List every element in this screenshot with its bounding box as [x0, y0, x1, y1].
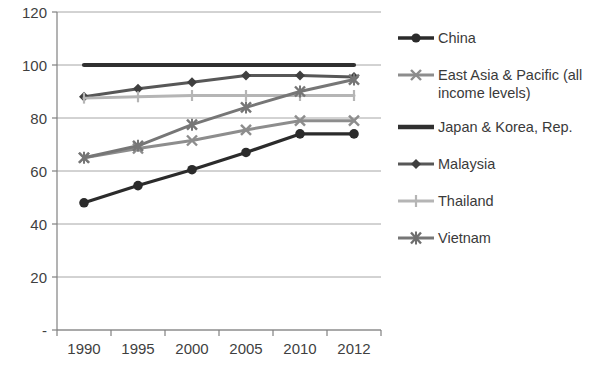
y-tick-label: -	[42, 322, 47, 339]
y-tick-label: 120	[22, 4, 47, 21]
y-tick-label: 20	[30, 269, 47, 286]
data-point	[187, 165, 197, 175]
y-tick-label: 80	[30, 110, 47, 127]
y-tick-label: 60	[30, 163, 47, 180]
series-vietnam	[79, 74, 359, 164]
data-point	[133, 181, 143, 191]
legend-label-vietnam: Vietnam	[438, 228, 491, 247]
legend-item-thailand[interactable]: Thailand	[396, 191, 599, 213]
series-east-asia-pacific-all-income-levels	[79, 116, 359, 163]
data-point	[349, 129, 359, 139]
x-tick-label: 1990	[67, 340, 100, 357]
legend-label-china: China	[438, 28, 476, 47]
series-line	[84, 134, 354, 203]
line-chart: -20406080100120199019952000200520102012 …	[0, 0, 599, 373]
plot-area: -20406080100120199019952000200520102012	[0, 0, 400, 373]
legend-item-vietnam[interactable]: Vietnam	[396, 228, 599, 250]
chart-legend: China East Asia & Pacific (all income le…	[396, 28, 599, 265]
legend-label-japan-korea: Japan & Korea, Rep.	[438, 117, 573, 136]
y-tick-label: 40	[30, 216, 47, 233]
legend-marker-diamond-icon	[396, 154, 436, 174]
legend-label-malaysia: Malaysia	[438, 154, 495, 173]
data-point	[295, 129, 305, 139]
data-point	[79, 198, 89, 208]
legend-label-thailand: Thailand	[438, 191, 494, 210]
data-point	[241, 148, 251, 158]
x-tick-label: 2010	[283, 340, 316, 357]
data-point	[187, 77, 197, 87]
chart-canvas: -20406080100120199019952000200520102012	[0, 0, 400, 373]
x-tick-label: 2012	[337, 340, 370, 357]
series-line	[84, 76, 354, 97]
x-tick-label: 2005	[229, 340, 262, 357]
series-china	[79, 129, 359, 208]
legend-item-east-asia-pacific[interactable]: East Asia & Pacific (all income levels)	[396, 65, 599, 102]
legend-marker-x-icon	[396, 65, 436, 85]
series-line	[84, 121, 354, 158]
data-point	[241, 71, 251, 81]
x-tick-label: 2000	[175, 340, 208, 357]
x-tick-label: 1995	[121, 340, 154, 357]
legend-marker-asterisk-icon	[396, 228, 436, 248]
y-tick-label: 100	[22, 57, 47, 74]
data-point	[295, 71, 305, 81]
legend-item-china[interactable]: China	[396, 28, 599, 50]
legend-item-japan-korea[interactable]: Japan & Korea, Rep.	[396, 117, 599, 139]
legend-marker-plus-icon	[396, 191, 436, 211]
series-line	[84, 95, 354, 98]
legend-marker-line-icon	[396, 117, 436, 137]
legend-label-east-asia-pacific: East Asia & Pacific (all income levels)	[438, 65, 598, 102]
legend-item-malaysia[interactable]: Malaysia	[396, 154, 599, 176]
legend-marker-circle-icon	[396, 28, 436, 48]
